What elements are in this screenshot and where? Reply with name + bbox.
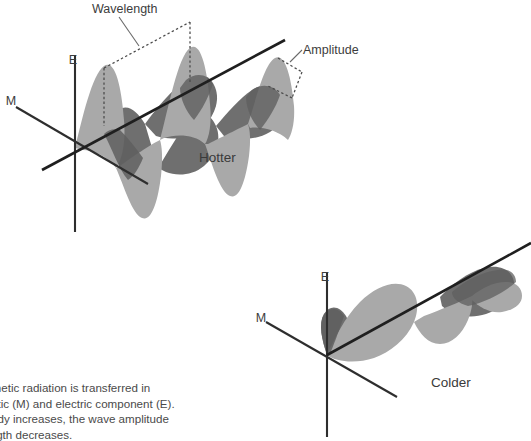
wavelength-leader [119, 17, 139, 46]
amplitude-leader [290, 50, 302, 62]
caption-line-4: avelength decreases. [0, 427, 252, 441]
caption-line-3: of a body increases, the wave amplitude [0, 411, 252, 427]
hotter-label-electric: E [69, 53, 77, 67]
hotter-label-magnetic: M [6, 94, 16, 108]
caption-line-2: magnetic (M) and electric component (E). [0, 396, 252, 412]
figure-caption: romagnetic radiation is transferred in m… [0, 380, 252, 441]
colder-label-magnetic: M [256, 311, 266, 325]
figure-svg: E M Hotter Wavelength Amplitude [0, 0, 531, 441]
electromagnetic-radiation-diagram: E M Hotter Wavelength Amplitude [0, 0, 531, 441]
wavelength-label: Wavelength [92, 2, 158, 16]
amplitude-label: Amplitude [303, 43, 359, 57]
amplitude-bracket-right [292, 72, 302, 98]
wavelength-span-line [104, 22, 190, 68]
hotter-panel-caption: Hotter [199, 150, 236, 165]
colder-panel-caption: Colder [431, 375, 471, 390]
colder-label-electric: E [321, 270, 329, 284]
caption-line-1: romagnetic radiation is transferred in [0, 380, 252, 396]
panel-hotter: E M Hotter [6, 40, 294, 232]
panel-colder: E M Colder [256, 243, 531, 437]
